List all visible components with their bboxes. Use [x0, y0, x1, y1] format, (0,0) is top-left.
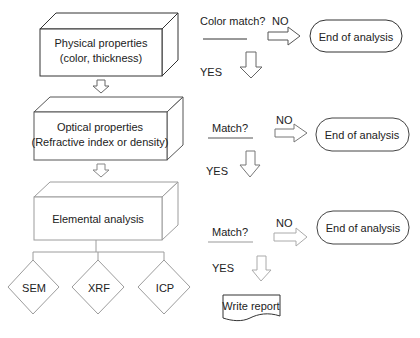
end-of-analysis-1-label: End of analysis	[319, 31, 394, 43]
decision-2-no-label: NO	[276, 114, 293, 126]
decision-1-no-label: NO	[272, 15, 289, 27]
decision-3-no-label: NO	[276, 217, 293, 229]
end-of-analysis-2: End of analysis	[316, 118, 409, 151]
stage-elemental-title: Elemental analysis	[52, 213, 144, 225]
end-of-analysis-3-label: End of analysis	[326, 222, 401, 234]
down-arrow-icon	[252, 256, 271, 281]
stage-elemental-analysis	[34, 182, 178, 240]
technique-sem: SEM	[8, 260, 59, 314]
decision-2-question: Match?	[212, 122, 248, 134]
down-arrow-icon	[93, 80, 109, 93]
down-arrow-icon	[93, 164, 109, 177]
right-arrow-icon	[274, 228, 307, 246]
write-report-document: Write report	[222, 295, 280, 321]
technique-xrf: XRF	[72, 260, 124, 314]
technique-icp: ICP	[138, 260, 190, 314]
decision-1-question: Color match?	[200, 15, 265, 27]
stage-optical-title: Optical properties	[57, 121, 144, 133]
write-report-label: Write report	[222, 300, 279, 312]
stage-physical-subtitle: (color, thickness)	[60, 52, 143, 64]
end-of-analysis-3: End of analysis	[317, 211, 409, 244]
technique-sem-label: SEM	[22, 282, 46, 294]
technique-xrf-label: XRF	[88, 282, 110, 294]
stage-physical-title: Physical properties	[55, 37, 148, 49]
technique-icp-label: ICP	[156, 282, 174, 294]
down-arrow-icon	[240, 52, 262, 78]
decision-3-question: Match?	[212, 226, 248, 238]
forensic-analysis-flowchart: Physical properties (color, thickness) O…	[0, 0, 420, 338]
end-of-analysis-1: End of analysis	[310, 20, 402, 52]
decision-3-yes-label: YES	[212, 262, 234, 274]
decision-2-yes-label: YES	[206, 165, 228, 177]
decision-1-yes-label: YES	[200, 66, 222, 78]
down-arrow-icon	[240, 151, 260, 177]
stage-optical-subtitle: (Refractive index or density)	[32, 136, 169, 148]
right-arrow-icon	[275, 124, 307, 142]
right-arrow-icon	[268, 27, 300, 45]
technique-connectors	[33, 240, 164, 260]
end-of-analysis-2-label: End of analysis	[325, 129, 400, 141]
